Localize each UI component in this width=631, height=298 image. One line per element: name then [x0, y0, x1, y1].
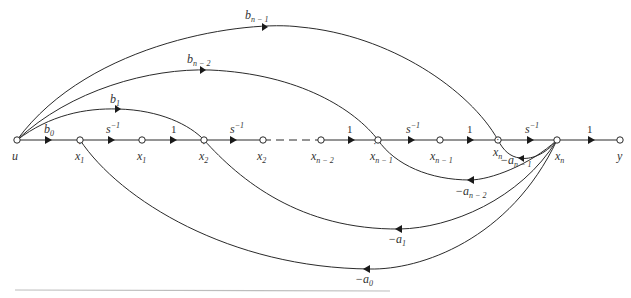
- node-x2: [260, 137, 266, 143]
- gain-1-a: 1: [171, 123, 177, 135]
- gain-s-inv-1: s−1: [106, 121, 120, 136]
- forward-gain-labels: b0 s−1 1 s−1 1 s−1 1 s−1 1: [44, 121, 593, 138]
- dot-accent: ˙: [372, 140, 376, 154]
- divider-rule: [15, 290, 390, 291]
- node-xn-2: [318, 137, 324, 143]
- gain-1-d: 1: [587, 123, 593, 135]
- feedforward-arcs: [17, 23, 498, 140]
- arrow-icon: [588, 136, 595, 144]
- gain-a-n-2: −an − 2: [455, 184, 487, 200]
- feedforward-labels: b1 bn − 2 bn − 1: [110, 8, 268, 108]
- node-label-xn: xn: [554, 149, 564, 165]
- arrow-icon: [108, 136, 115, 144]
- dot-accent: ˙: [77, 140, 81, 154]
- node-label-xn-2: xn − 2: [310, 149, 334, 165]
- node-label-u: u: [12, 149, 18, 163]
- gain-b-n-1: bn − 1: [245, 8, 268, 24]
- gain-a-n-1: −an − 1: [500, 153, 532, 169]
- gain-1-b: 1: [347, 123, 353, 135]
- gain-b-n-2: bn − 2: [187, 52, 210, 68]
- gain-s-inv-2: s−1: [230, 121, 244, 136]
- gain-s-inv-3: s−1: [406, 121, 420, 136]
- node-u: [14, 137, 20, 143]
- node-xn: [554, 137, 560, 143]
- arrow-icon: [408, 136, 415, 144]
- node-label-y: y: [616, 149, 623, 163]
- signal-flow-graph: u x1 ˙ x1 x2 ˙ x2 xn − 2 xn − 1 ˙ xn − 1…: [0, 0, 631, 298]
- node-xn-1: [437, 137, 443, 143]
- node-x1: [139, 137, 145, 143]
- gain-b1: b1: [110, 92, 120, 108]
- node-y: [617, 137, 623, 143]
- arc-b-n-2: [17, 70, 378, 140]
- node-label-x1: x1: [136, 149, 146, 165]
- arc-b-n-1: [17, 26, 498, 140]
- arrow-icon: [262, 23, 268, 31]
- node-label-x2: x2: [256, 149, 266, 165]
- arrow-icon: [527, 136, 534, 144]
- gain-1-c: 1: [467, 123, 473, 135]
- feedback-labels: −an − 1 −an − 2 −a1 −a0: [355, 153, 532, 288]
- dot-accent: ˙: [201, 140, 205, 154]
- gain-s-inv-4: s−1: [525, 121, 539, 136]
- arrow-icon: [230, 136, 237, 144]
- gain-b0: b0: [44, 122, 54, 138]
- gain-a-0: −a0: [355, 272, 373, 288]
- gain-a-1: −a1: [388, 232, 406, 248]
- dot-accent: ˙: [495, 136, 499, 150]
- arrow-icon: [467, 136, 474, 144]
- arrow-icon: [348, 136, 355, 144]
- arrow-icon: [467, 176, 474, 184]
- arrow-icon: [170, 136, 177, 144]
- node-label-xn-1: xn − 1: [429, 149, 453, 165]
